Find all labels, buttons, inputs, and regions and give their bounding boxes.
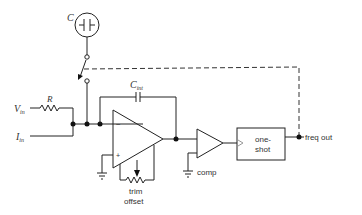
opamp-minus: −	[116, 120, 121, 129]
oneshot-line1: one-	[255, 135, 271, 144]
integrator-opamp	[97, 110, 197, 183]
freq-out-label: freq out	[305, 133, 333, 142]
resistor-r-label: R	[46, 94, 53, 104]
circuit-diagram: C R Vin Iin Cint	[0, 0, 362, 215]
offset-label-2: offset	[124, 197, 144, 206]
switch	[78, 55, 89, 124]
comp-label: comp	[197, 168, 217, 177]
trim-label: trim	[129, 187, 143, 196]
v-in-label: Vin	[14, 103, 25, 115]
capacitor-c	[75, 13, 99, 55]
i-in-label: Iin	[15, 131, 24, 143]
opamp-plus: +	[116, 152, 120, 159]
oneshot-line2: shot	[255, 145, 271, 154]
one-shot-block	[237, 128, 304, 160]
capacitor-c-label: C	[67, 12, 74, 23]
capacitor-cint	[100, 92, 176, 137]
cint-label: Cint	[130, 79, 143, 91]
